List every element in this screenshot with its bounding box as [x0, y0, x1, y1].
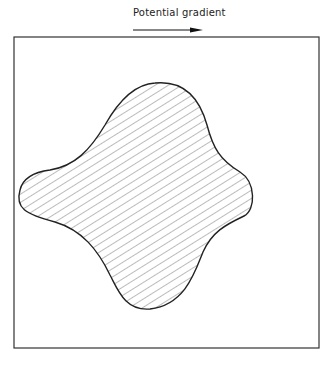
hatched-region — [19, 83, 253, 309]
gradient-arrow-icon — [133, 28, 203, 33]
diagram-canvas — [0, 0, 335, 367]
